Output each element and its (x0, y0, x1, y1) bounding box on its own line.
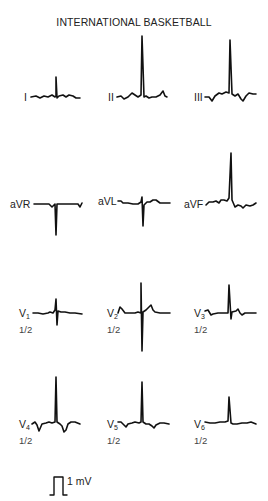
lead-label-V1: V1 (19, 308, 30, 320)
trace-lead-I (31, 77, 80, 98)
lead-label-V6: V6 (194, 419, 205, 431)
ecg-traces (0, 0, 268, 501)
scale-V5: 1/2 (107, 436, 120, 446)
trace-lead-aVL (118, 197, 170, 226)
lead-label-aVL: aVL (98, 196, 117, 207)
lead-label-V3: V3 (194, 308, 205, 320)
trace-lead-aVF (206, 153, 256, 208)
trace-lead-V3 (205, 285, 256, 319)
lead-label-aVF: aVF (184, 199, 203, 210)
trace-lead-V6 (205, 397, 256, 424)
lead-label-V4: V4 (19, 419, 30, 431)
lead-label-II: II (108, 92, 114, 103)
trace-lead-V4 (32, 377, 80, 432)
lead-label-aVR: aVR (10, 199, 30, 210)
trace-lead-V5 (118, 382, 169, 428)
calibration-pulse (50, 477, 67, 495)
lead-label-III: III (194, 92, 203, 103)
scale-V1: 1/2 (19, 325, 32, 335)
scale-V3: 1/2 (194, 325, 207, 335)
lead-label-V2: V2 (107, 308, 118, 320)
scale-V4: 1/2 (19, 436, 32, 446)
scale-V6: 1/2 (194, 436, 207, 446)
scale-V2: 1/2 (107, 325, 120, 335)
trace-lead-V1 (33, 299, 82, 325)
lead-label-I: I (24, 92, 27, 103)
trace-lead-V2 (118, 283, 170, 351)
trace-lead-II (117, 36, 167, 99)
trace-lead-aVR (34, 203, 82, 235)
lead-label-V5: V5 (107, 419, 118, 431)
calibration-label: 1 mV (67, 475, 92, 487)
trace-lead-III (205, 40, 256, 101)
